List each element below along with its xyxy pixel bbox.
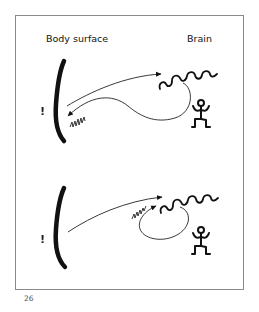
brain-squiggle-icon — [132, 206, 146, 219]
body-surface-bracket — [56, 188, 65, 267]
afferent-arrow — [67, 74, 161, 106]
brain-wave — [161, 195, 218, 213]
panel-top: ! — [40, 61, 217, 141]
body-squiggle-icon — [70, 117, 85, 127]
page-number: 26 — [24, 294, 34, 303]
diagram-canvas: ! ! — [0, 0, 259, 312]
exclamation-marker: ! — [40, 105, 45, 118]
return-loop-arrow — [68, 83, 190, 120]
body-surface-bracket — [56, 61, 64, 141]
stick-figure-icon — [192, 227, 210, 254]
exclamation-marker: ! — [40, 233, 45, 246]
panel-bottom: ! — [40, 188, 218, 267]
brain-wave — [160, 71, 217, 89]
afferent-arrow — [68, 197, 162, 232]
internal-loop-arrow — [139, 206, 188, 239]
stick-figure-icon — [192, 100, 210, 127]
